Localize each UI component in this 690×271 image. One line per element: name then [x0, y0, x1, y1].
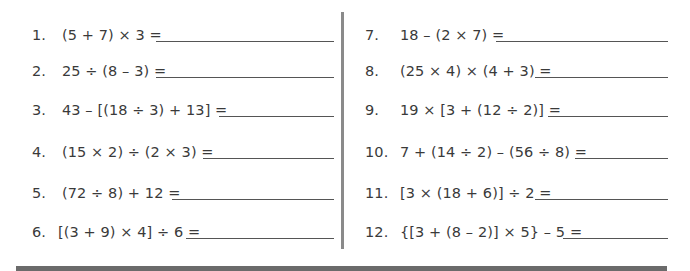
problem-expression: [3 × (18 + 6)] ÷ 2 = [400, 185, 552, 201]
problem-number: 6. [32, 224, 46, 240]
answer-blank[interactable] [496, 41, 668, 42]
problem-expression: 25 ÷ (8 – 3) = [62, 63, 166, 79]
problem-3: 3. 43 – [(18 ÷ 3) + 13] = [32, 97, 337, 121]
problem-9: 9. 19 × [3 + (12 ÷ 2)] = [365, 97, 670, 121]
problem-number: 11. [365, 185, 388, 201]
problem-number: 3. [32, 102, 46, 118]
problem-expression: (72 ÷ 8) + 12 = [62, 185, 180, 201]
problem-number: 7. [365, 27, 379, 43]
problem-number: 2. [32, 63, 46, 79]
problem-expression: 19 × [3 + (12 ÷ 2)] = [400, 102, 561, 118]
problem-number: 12. [365, 224, 388, 240]
answer-blank[interactable] [548, 116, 668, 117]
problem-expression: (5 + 7) × 3 = [62, 27, 162, 43]
problem-12: 12. {[3 + (8 – 2)] × 5} – 5 = [365, 219, 670, 243]
problem-4: 4. (15 × 2) ÷ (2 × 3) = [32, 139, 337, 163]
answer-blank[interactable] [156, 41, 334, 42]
problem-expression: 43 – [(18 ÷ 3) + 13] = [62, 102, 227, 118]
column-divider [341, 12, 344, 249]
problem-expression: {[3 + (8 – 2)] × 5} – 5 = [400, 224, 582, 240]
problem-11: 11. [3 × (18 + 6)] ÷ 2 = [365, 180, 670, 204]
answer-blank[interactable] [563, 238, 668, 239]
problem-8: 8. (25 × 4) × (4 + 3) = [365, 58, 670, 82]
answer-blank[interactable] [219, 116, 334, 117]
problem-6: 6. [(3 + 9) × 4] ÷ 6 = [32, 219, 337, 243]
bottom-rule [16, 266, 667, 271]
answer-blank[interactable] [575, 158, 668, 159]
problem-expression: [(3 + 9) × 4] ÷ 6 = [58, 224, 200, 240]
answer-blank[interactable] [172, 199, 334, 200]
problem-2: 2. 25 ÷ (8 – 3) = [32, 58, 337, 82]
problem-number: 8. [365, 63, 379, 79]
problem-number: 10. [365, 144, 388, 160]
problem-10: 10. 7 + (14 ÷ 2) – (56 ÷ 8) = [365, 139, 670, 163]
problem-number: 1. [32, 27, 46, 43]
problem-number: 5. [32, 185, 46, 201]
answer-blank[interactable] [535, 77, 668, 78]
problem-expression: (15 × 2) ÷ (2 × 3) = [62, 144, 214, 160]
answer-blank[interactable] [156, 77, 334, 78]
problem-number: 9. [365, 102, 379, 118]
answer-blank[interactable] [203, 158, 334, 159]
problem-5: 5. (72 ÷ 8) + 12 = [32, 180, 337, 204]
answer-blank[interactable] [186, 238, 334, 239]
problem-number: 4. [32, 144, 46, 160]
problem-1: 1. (5 + 7) × 3 = [32, 22, 337, 46]
problem-7: 7. 18 – (2 × 7) = [365, 22, 670, 46]
problem-expression: 18 – (2 × 7) = [400, 27, 504, 43]
problem-expression: 7 + (14 ÷ 2) – (56 ÷ 8) = [400, 144, 587, 160]
answer-blank[interactable] [535, 199, 668, 200]
problem-expression: (25 × 4) × (4 + 3) = [400, 63, 552, 79]
